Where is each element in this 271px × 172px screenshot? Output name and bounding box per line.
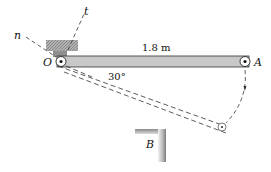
- obstacle-label: B: [145, 138, 154, 151]
- length-label: 1.8 m: [142, 42, 171, 53]
- angle-label: 30°: [108, 71, 126, 82]
- arc-arrow-icon: [244, 86, 247, 91]
- fixed-support: [46, 40, 78, 57]
- swing-arc: [226, 70, 245, 123]
- rotated-bar-outline: [58, 66, 226, 133]
- pivot-O: [56, 57, 66, 67]
- bar-OA: [57, 56, 249, 67]
- diagram-canvas: n t O A B 1.8 m 30°: [0, 0, 271, 172]
- end-label: A: [253, 56, 262, 69]
- pivot-label: O: [43, 56, 52, 69]
- t-axis-label: t: [84, 5, 89, 18]
- n-axis-label: n: [14, 29, 21, 42]
- end-pin-A: [240, 57, 250, 67]
- rotated-end-pin: [218, 123, 226, 131]
